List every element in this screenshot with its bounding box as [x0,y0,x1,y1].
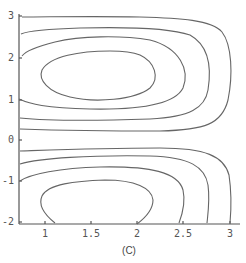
svg-text:1: 1 [42,228,48,239]
svg-text:0: 0 [8,134,14,145]
figure-caption: (C) [122,245,136,256]
svg-text:1: 1 [8,94,14,105]
upper-contours [19,17,231,131]
svg-text:2: 2 [8,52,14,63]
x-tick-labels: 1 1.5 2 2.5 3 [42,228,233,239]
svg-text:3: 3 [8,10,14,21]
svg-text:3: 3 [227,228,233,239]
svg-text:-1: -1 [2,175,14,186]
svg-text:2.5: 2.5 [174,228,192,239]
svg-text:-2: -2 [2,216,14,227]
lower-contours [20,148,231,224]
y-tick-labels: 3 2 1 0 -1 -2 [2,10,14,227]
svg-text:2: 2 [134,228,140,239]
svg-text:1.5: 1.5 [82,228,100,239]
contour-plot: 3 2 1 0 -1 -2 1 1.5 2 2.5 3 [0,0,246,263]
